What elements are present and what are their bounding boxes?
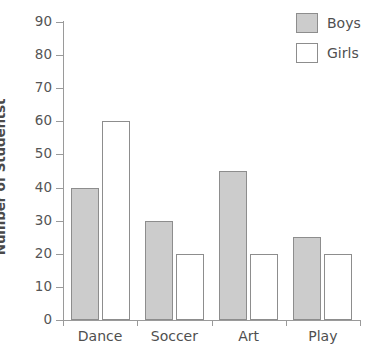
y-axis-tick-label-wrap: 0 (0, 313, 52, 327)
y-axis-tick-label-wrap: 50 (0, 147, 52, 161)
legend-item-girls: Girls (296, 40, 370, 66)
bar-dance-girls (102, 121, 130, 320)
legend-item-boys: Boys (296, 10, 370, 36)
bar-soccer-girls (176, 254, 204, 320)
y-axis-tick-label: 30 (2, 214, 52, 228)
bar-soccer-boys (145, 221, 173, 320)
y-axis-tick (56, 188, 64, 189)
x-axis-label-play: Play (286, 329, 360, 344)
bar-chart: Number of Studentst 0102030405060708090D… (0, 0, 370, 354)
x-axis-tick (137, 320, 138, 326)
y-axis-tick-label: 70 (2, 81, 52, 95)
x-axis-tick (360, 320, 361, 326)
y-axis-tick-label-wrap: 90 (0, 15, 52, 29)
y-axis-tick-label: 20 (2, 247, 52, 261)
x-axis-label-soccer: Soccer (137, 329, 211, 344)
bar-art-boys (219, 171, 247, 320)
x-axis-label-art: Art (212, 329, 286, 344)
y-axis-tick-label-wrap: 30 (0, 214, 52, 228)
y-axis-tick-label: 10 (2, 280, 52, 294)
bar-play-boys (293, 237, 321, 320)
x-axis-label-dance: Dance (63, 329, 137, 344)
y-axis-tick (56, 221, 64, 222)
y-axis-tick (56, 154, 64, 155)
y-axis-tick-label: 60 (2, 114, 52, 128)
y-axis-tick-label: 50 (2, 147, 52, 161)
y-axis-tick (56, 22, 64, 23)
y-axis-tick-label-wrap: 20 (0, 247, 52, 261)
y-axis-tick (56, 88, 64, 89)
y-axis-tick-label: 40 (2, 181, 52, 195)
y-axis-tick-label: 90 (2, 15, 52, 29)
y-axis-tick-label: 80 (2, 48, 52, 62)
y-axis-tick-label-wrap: 40 (0, 181, 52, 195)
y-axis-tick-label-wrap: 80 (0, 48, 52, 62)
bar-play-girls (324, 254, 352, 320)
bar-art-girls (250, 254, 278, 320)
y-axis-tick (56, 254, 64, 255)
y-axis-tick (56, 287, 64, 288)
y-axis-tick-label-wrap: 70 (0, 81, 52, 95)
y-axis-tick (56, 55, 64, 56)
bar-dance-boys (71, 188, 99, 320)
chart-legend: Boys Girls (296, 10, 370, 70)
y-axis-line (63, 21, 64, 321)
x-axis-tick (63, 320, 64, 326)
y-axis-tick-label: 0 (2, 313, 52, 327)
legend-label-girls: Girls (327, 45, 359, 61)
x-axis-tick (212, 320, 213, 326)
legend-swatch-boys-icon (296, 13, 318, 33)
legend-label-boys: Boys (327, 15, 361, 31)
legend-swatch-girls-icon (296, 43, 318, 63)
y-axis-tick-label-wrap: 60 (0, 114, 52, 128)
x-axis-tick (286, 320, 287, 326)
y-axis-tick-label-wrap: 10 (0, 280, 52, 294)
y-axis-tick (56, 121, 64, 122)
